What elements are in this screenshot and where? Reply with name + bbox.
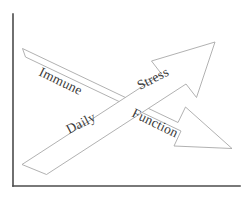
- diagram-canvas: Immune Function Daily Stress: [0, 0, 250, 199]
- figure-root: Immune Function Daily Stress: [0, 0, 250, 199]
- label-function: Function: [130, 105, 181, 140]
